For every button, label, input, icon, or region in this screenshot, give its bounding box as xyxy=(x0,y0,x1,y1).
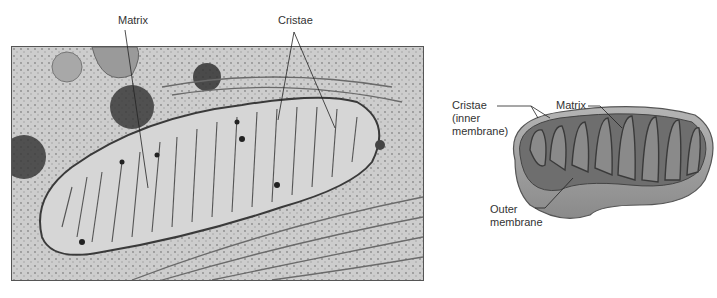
label-outer-line2: membrane xyxy=(490,216,550,229)
label-cristae-inner-membrane: Cristae (inner membrane) xyxy=(452,99,512,138)
micrograph-image xyxy=(12,47,423,280)
label-cristae-photo: Cristae xyxy=(278,14,313,27)
label-outer-line1: Outer xyxy=(490,203,550,216)
label-cristae-line1: Cristae xyxy=(452,99,512,112)
label-matrix-photo: Matrix xyxy=(118,14,148,27)
electron-micrograph xyxy=(11,46,424,281)
label-matrix-illustration: Matrix xyxy=(556,99,586,112)
label-cristae-line2: (inner xyxy=(452,112,512,125)
label-cristae-line3: membrane) xyxy=(452,125,512,138)
label-outer-membrane: Outer membrane xyxy=(490,203,550,229)
